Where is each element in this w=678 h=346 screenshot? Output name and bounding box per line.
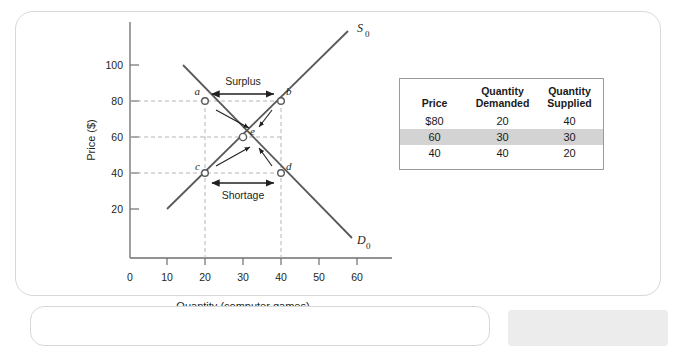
point-d-marker: [278, 170, 285, 177]
y-tick-80: 80: [111, 95, 123, 107]
x-tick-0: 0: [127, 271, 133, 283]
point-c-label: c: [195, 160, 200, 172]
supply-curve-label: S 0: [357, 21, 370, 39]
chart-axes: [130, 22, 392, 258]
x-tick-40: 40: [275, 271, 287, 283]
y-tick-100: 100: [105, 59, 123, 71]
surplus-label: Surplus: [225, 75, 261, 87]
column-header-quantity-demanded: Quantity Demanded: [469, 85, 536, 113]
supply-curve-label-sub: 0: [365, 29, 370, 39]
y-tick-40: 40: [111, 167, 123, 179]
y-axis-title: Price ($): [85, 119, 97, 161]
y-axis-tick-labels: 100 80 60 40 20: [105, 59, 123, 215]
table-row: $80 20 40: [400, 113, 603, 129]
guide-lines: [130, 101, 281, 258]
x-tick-60: 60: [351, 271, 363, 283]
point-c-marker: [202, 170, 209, 177]
supply-curve-label-text: S: [357, 21, 363, 35]
table-header-row: Price Quantity Demanded Quantity Supplie…: [400, 85, 603, 113]
supply-demand-table: Price Quantity Demanded Quantity Supplie…: [399, 78, 604, 170]
demand-curve-label-sub: 0: [366, 241, 371, 251]
shortage-label: Shortage: [222, 189, 265, 201]
point-a-marker: [202, 98, 209, 105]
x-tick-50: 50: [313, 271, 325, 283]
lower-panel-partial: [30, 306, 490, 346]
table-row: 40 40 20: [400, 145, 603, 161]
point-e-label: e: [250, 125, 255, 137]
demand-curve-label-text: D: [356, 233, 366, 247]
point-b-marker: [278, 98, 285, 105]
x-tick-20: 20: [199, 271, 211, 283]
x-axis-ticks: [167, 258, 357, 265]
cell-quantity-supplied: 20: [536, 145, 603, 161]
demand-curve: [183, 65, 352, 238]
column-header-price: Price: [400, 85, 469, 113]
point-e-marker: [239, 133, 246, 140]
demand-curve-label: D 0: [356, 233, 371, 251]
cell-price: $80: [400, 113, 469, 129]
cell-price: 40: [400, 145, 469, 161]
point-a-label: a: [195, 85, 201, 97]
x-tick-10: 10: [161, 271, 173, 283]
lower-right-panel-partial: [508, 310, 668, 346]
cell-quantity-demanded: 40: [469, 145, 536, 161]
x-axis-tick-labels: 0 10 20 30 40 50 60: [127, 271, 363, 283]
cell-quantity-supplied: 30: [536, 129, 603, 145]
cell-quantity-supplied: 40: [536, 113, 603, 129]
y-tick-20: 20: [111, 203, 123, 215]
table-row-highlighted: 60 30 30: [400, 129, 603, 145]
point-b-label: b: [286, 85, 292, 97]
y-tick-60: 60: [111, 131, 123, 143]
cell-price: 60: [400, 129, 469, 145]
cell-quantity-demanded: 30: [469, 129, 536, 145]
column-header-quantity-supplied: Quantity Supplied: [536, 85, 603, 113]
point-d-label: d: [286, 160, 292, 172]
schedule-table: Price Quantity Demanded Quantity Supplie…: [400, 85, 603, 161]
cell-quantity-demanded: 20: [469, 113, 536, 129]
x-tick-30: 30: [237, 271, 249, 283]
